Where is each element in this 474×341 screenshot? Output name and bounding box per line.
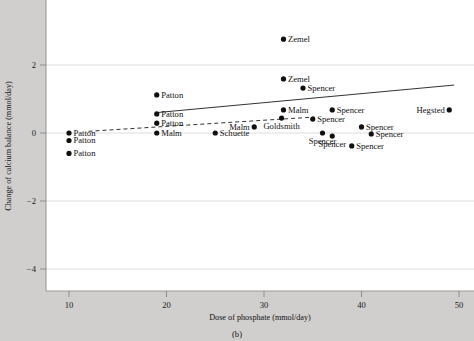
data-point-label: Zemel bbox=[288, 34, 311, 44]
y-tick-label: 2 bbox=[32, 60, 36, 70]
data-point-marker bbox=[330, 133, 335, 138]
data-point-marker bbox=[369, 131, 374, 136]
x-tick-label: 10 bbox=[65, 300, 74, 310]
data-point-marker bbox=[300, 86, 305, 91]
data-point-label: Malm bbox=[161, 128, 182, 138]
data-point-marker bbox=[66, 130, 71, 135]
data-point-marker bbox=[279, 115, 284, 120]
data-point-marker bbox=[154, 111, 159, 116]
data-point-label: Patton bbox=[74, 148, 97, 158]
data-point-label: Spencer bbox=[376, 129, 404, 139]
plot-area-background bbox=[46, 0, 474, 291]
data-point-label: Spencer bbox=[337, 105, 365, 115]
data-point-marker bbox=[349, 143, 354, 148]
y-tick-label: −2 bbox=[27, 196, 36, 206]
data-point-label: Malm bbox=[229, 122, 250, 132]
data-point-label: Patton bbox=[74, 135, 97, 145]
data-point-marker bbox=[330, 107, 335, 112]
y-tick-label: 0 bbox=[32, 128, 36, 138]
y-axis-ticks: 20−2−4 bbox=[27, 60, 46, 274]
x-tick-label: 30 bbox=[260, 300, 269, 310]
data-point-marker bbox=[447, 107, 452, 112]
data-point-marker bbox=[66, 151, 71, 156]
data-point-marker bbox=[154, 130, 159, 135]
x-axis-ticks: 1020304050 bbox=[65, 291, 464, 310]
data-point-marker bbox=[154, 92, 159, 97]
data-point-label: Hegsted bbox=[417, 105, 446, 115]
data-point-marker bbox=[66, 138, 71, 143]
data-point-marker bbox=[154, 121, 159, 126]
data-point-marker bbox=[320, 130, 325, 135]
x-tick-label: 20 bbox=[162, 300, 171, 310]
data-point-marker bbox=[310, 116, 315, 121]
x-axis-title: Dose of phosphate (mmol/day) bbox=[209, 313, 311, 322]
data-point-label: Spencer bbox=[308, 83, 336, 93]
x-tick-label: 50 bbox=[455, 300, 464, 310]
data-point-label: Spencer bbox=[317, 114, 345, 124]
data-point-marker bbox=[359, 124, 364, 129]
y-tick-label: −4 bbox=[27, 264, 37, 274]
figure-caption: (b) bbox=[232, 329, 242, 339]
data-point-marker bbox=[281, 37, 286, 42]
data-point-label: Patton bbox=[161, 118, 184, 128]
figure-container: 1020304050 20−2−4 PattonPattonPattonPatt… bbox=[0, 0, 474, 341]
data-point-label: Spencer bbox=[318, 139, 346, 149]
data-point-marker bbox=[281, 107, 286, 112]
data-point-marker bbox=[213, 130, 218, 135]
scatter-plot: 1020304050 20−2−4 PattonPattonPattonPatt… bbox=[0, 0, 474, 341]
x-tick-label: 40 bbox=[357, 300, 366, 310]
data-point-marker bbox=[252, 124, 257, 129]
data-point-label: Patton bbox=[161, 90, 184, 100]
data-point-marker bbox=[281, 76, 286, 81]
y-axis-title: Change of calcium balance (mmol/day) bbox=[4, 81, 13, 211]
data-point-label: Malm bbox=[288, 105, 309, 115]
data-point-label: Spencer bbox=[356, 141, 384, 151]
data-point-label: Goldsmith bbox=[263, 121, 300, 131]
